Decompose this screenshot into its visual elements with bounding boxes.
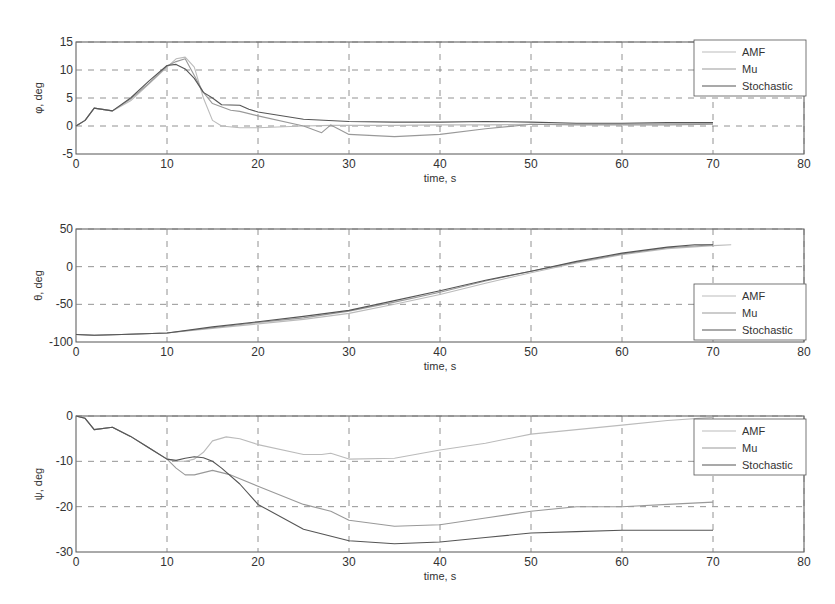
x-tick-label: 60 [615,157,629,171]
y-tick-label: 10 [60,63,74,77]
y-tick-label: -30 [56,545,74,559]
x-tick-label: 0 [73,157,80,171]
y-tick-label: 0 [66,409,73,423]
y-tick-label: -5 [62,147,73,161]
y-axis-label: φ, deg [32,82,44,114]
legend-label: Mu [742,442,757,454]
x-tick-label: 50 [524,555,538,569]
x-tick-label: 10 [160,157,174,171]
y-axis-label: ψ, deg [32,468,44,500]
x-tick-label: 40 [433,157,447,171]
y-axis-label: θ, deg [32,270,44,301]
legend-label: AMF [742,425,766,437]
x-tick-label: 50 [524,157,538,171]
x-tick-label: 0 [73,345,80,359]
x-axis-label: time, s [424,570,457,582]
y-tick-label: -10 [56,454,74,468]
legend-label: Mu [742,307,757,319]
x-tick-label: 70 [706,345,720,359]
legend-label: Mu [742,63,757,75]
panel-theta: 01020304050607080-100-50050time, sθ, deg… [32,222,811,372]
x-tick-label: 0 [73,555,80,569]
x-tick-label: 30 [342,555,356,569]
x-tick-label: 20 [251,157,265,171]
x-tick-label: 20 [251,345,265,359]
y-tick-label: 0 [66,260,73,274]
x-tick-label: 70 [706,555,720,569]
y-tick-label: 0 [66,119,73,133]
legend: AMFMuStochastic [694,419,806,475]
legend: AMFMuStochastic [694,284,806,340]
x-tick-label: 80 [797,555,811,569]
y-tick-label: 15 [60,35,74,49]
x-tick-label: 80 [797,345,811,359]
legend-label: AMF [742,290,766,302]
legend-label: AMF [742,46,766,58]
x-tick-label: 30 [342,345,356,359]
panel-phi: 01020304050607080-5051015time, sφ, degAM… [32,35,811,184]
legend-label: Stochastic [742,80,793,92]
x-axis-label: time, s [424,360,457,372]
y-tick-label: -50 [56,297,74,311]
x-tick-label: 40 [433,555,447,569]
x-tick-label: 30 [342,157,356,171]
x-tick-label: 40 [433,345,447,359]
x-tick-label: 70 [706,157,720,171]
x-tick-label: 20 [251,555,265,569]
figure: 01020304050607080-5051015time, sφ, degAM… [0,0,835,604]
x-tick-label: 50 [524,345,538,359]
y-tick-label: -100 [49,335,73,349]
x-tick-label: 60 [615,555,629,569]
y-tick-label: 5 [66,91,73,105]
x-axis-label: time, s [424,172,457,184]
x-tick-label: 10 [160,555,174,569]
panel-psi: 01020304050607080-30-20-100time, sψ, deg… [32,409,811,582]
legend: AMFMuStochastic [694,40,806,96]
x-tick-label: 60 [615,345,629,359]
legend-label: Stochastic [742,324,793,336]
y-tick-label: -20 [56,500,74,514]
x-tick-label: 10 [160,345,174,359]
legend-label: Stochastic [742,459,793,471]
y-tick-label: 50 [60,222,74,236]
x-tick-label: 80 [797,157,811,171]
